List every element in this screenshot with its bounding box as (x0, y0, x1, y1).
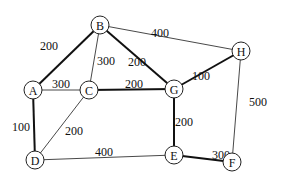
node-B: B (91, 16, 109, 34)
node-label: B (96, 19, 104, 33)
edge-weight-A-D: 100 (12, 120, 30, 134)
node-D: D (26, 151, 44, 169)
edge-weight-C-G: 200 (125, 77, 143, 91)
node-label: H (237, 45, 246, 59)
edge-A-D (33, 90, 35, 160)
node-C: C (80, 81, 98, 99)
node-A: A (24, 81, 42, 99)
edge-weight-B-H: 400 (151, 26, 169, 40)
edge-weight-D-E: 400 (95, 145, 113, 159)
edge-weight-G-E: 200 (175, 115, 193, 129)
edge-weight-B-C: 300 (97, 54, 115, 68)
node-E: E (165, 146, 183, 164)
node-H: H (232, 42, 250, 60)
edges-layer (33, 25, 241, 162)
edge-B-H (100, 25, 241, 51)
edge-weight-H-F: 500 (249, 95, 267, 109)
node-label: D (31, 154, 40, 168)
node-label: E (170, 149, 177, 163)
node-F: F (223, 153, 241, 171)
edge-weight-A-C: 300 (52, 77, 70, 91)
edge-weight-A-B: 200 (40, 39, 58, 53)
node-label: G (170, 83, 179, 97)
edge-H-F (232, 51, 241, 162)
node-label: F (229, 156, 236, 170)
edge-weight-C-D: 200 (65, 124, 83, 138)
edge-weights-layer: 200300200400100300200100200400200300500 (12, 26, 267, 162)
edge-weight-G-H: 100 (192, 69, 210, 83)
node-label: C (85, 84, 93, 98)
node-label: A (29, 84, 38, 98)
node-G: G (165, 80, 183, 98)
weighted-graph-diagram: 200300200400100300200100200400200300500 … (0, 0, 284, 181)
edge-weight-B-G: 200 (128, 55, 146, 69)
